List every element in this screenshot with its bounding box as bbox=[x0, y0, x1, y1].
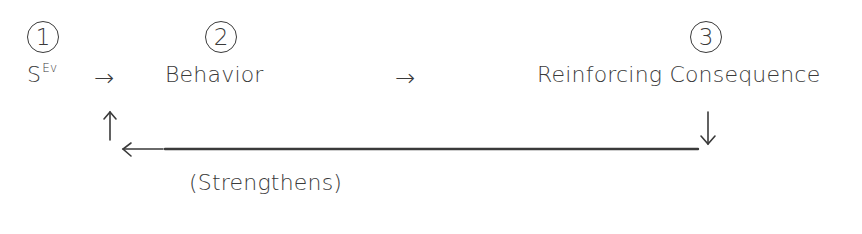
arrow-left-icon bbox=[123, 143, 698, 156]
arrow-up-icon bbox=[104, 112, 116, 140]
arrow-down-icon bbox=[701, 112, 715, 144]
feedback-loop bbox=[0, 0, 862, 234]
feedback-label: (Strengthens) bbox=[189, 170, 342, 195]
